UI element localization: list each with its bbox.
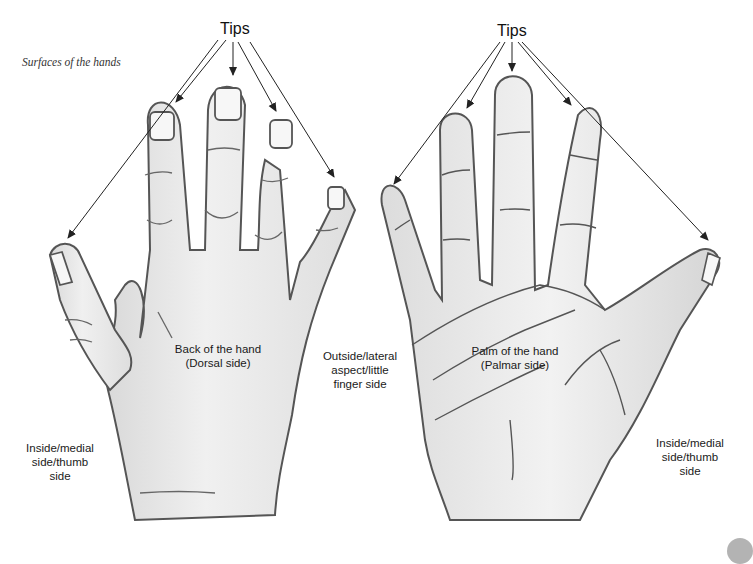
right-medial-side-label: Inside/medial side/thumb side: [640, 436, 740, 478]
palmar-side-label: Palm of the hand (Palmar side): [455, 344, 575, 372]
left-tips-arrows: [68, 40, 334, 238]
left-medial-side-label: Inside/medial side/thumb side: [10, 441, 110, 483]
lateral-side-label: Outside/lateral aspect/little finger sid…: [310, 349, 410, 391]
left-tips-label: Tips: [220, 20, 250, 38]
dorsal-side-label: Back of the hand (Dorsal side): [158, 342, 278, 370]
corner-page-marker: [727, 538, 753, 564]
right-tips-label: Tips: [497, 22, 527, 40]
